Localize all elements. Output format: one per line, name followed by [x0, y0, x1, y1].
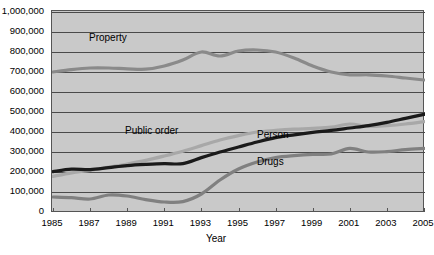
x-axis-tick-label: 1993 — [190, 218, 211, 228]
x-axis-tick-label: 1997 — [264, 218, 285, 228]
x-axis-tick-label: 1995 — [227, 218, 248, 228]
x-axis-tick-label: 2003 — [375, 218, 396, 228]
x-axis-tick-label: 2005 — [412, 218, 433, 228]
series-label-public-order: Public order — [125, 126, 178, 136]
series-label-drugs: Drugs — [257, 157, 284, 167]
series-label-property: Property — [89, 33, 127, 43]
x-axis-tick-label: 1985 — [41, 218, 62, 228]
x-axis-tick-label: 1987 — [79, 218, 100, 228]
x-axis-tick-label: 1991 — [153, 218, 174, 228]
x-axis-tick-label: 2001 — [338, 218, 359, 228]
x-axis-tick-label: 1989 — [116, 218, 137, 228]
series-label-person: Person — [257, 130, 289, 140]
x-axis-title: Year — [0, 233, 432, 244]
cut-off-caption — [0, 248, 432, 255]
x-axis-tick-label: 1999 — [301, 218, 322, 228]
